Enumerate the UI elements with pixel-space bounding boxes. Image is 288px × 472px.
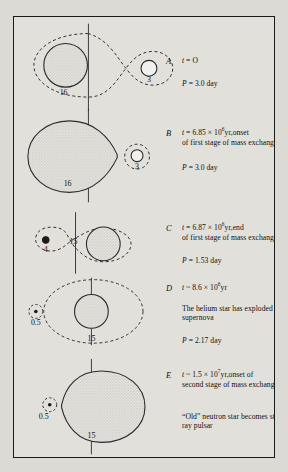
- panel-a-letter: A: [166, 57, 171, 66]
- panel-e-letter: E: [166, 371, 171, 380]
- panel-e-mass-label-neutron: 0.5: [39, 412, 49, 421]
- panel-a-period: P = 3.0 day: [182, 80, 218, 89]
- panel-b-time: t = 6.85 × 106yr,onset of first stage of…: [182, 129, 275, 147]
- panel-e-body: second stage of mass exchange: [182, 381, 275, 390]
- panel-a-mass-label-primary: 16: [60, 88, 68, 97]
- panel-b-star-primary-roche-filling: [28, 121, 117, 192]
- panel-e-star-companion-roche-filling: [62, 371, 145, 442]
- panel-e-star-neutron: [48, 403, 52, 407]
- panel-d-drawing: 0.5 15: [29, 278, 143, 345]
- panel-c-body: of first stage of mass exchange: [182, 234, 275, 243]
- panel-b-star-secondary: [131, 150, 143, 162]
- panel-a-star-secondary: [141, 60, 157, 76]
- panel-e-time: t ~ 1.5 × 107yr,onset of second stage of…: [182, 371, 275, 389]
- panel-b-body: of first stage of mass exchange: [182, 139, 275, 148]
- panel-c-drawing: 4 15: [36, 212, 131, 274]
- panel-d-body: The helium star has exploded as a supern…: [182, 305, 275, 322]
- panel-e-body-2: “Old” neutron star becomes strong X-ray …: [182, 413, 275, 430]
- panel-b-period: P = 3.0 day: [182, 164, 218, 173]
- panel-d-mass-label-neutron: 0.5: [31, 318, 41, 327]
- panel-b-mass-label-primary: 16: [64, 179, 72, 188]
- panel-d-star-companion: [75, 295, 109, 329]
- panel-c-period: P = 1.53 day: [182, 257, 222, 266]
- panel-d-star-neutron: [34, 310, 38, 314]
- panel-c-star-helium: [42, 237, 49, 244]
- panel-a-drawing: 16 3: [34, 24, 173, 111]
- panel-e-drawing: 0.5 15: [39, 359, 145, 454]
- panel-a-star-primary: [44, 43, 88, 87]
- panel-e-mass-label-companion: 15: [87, 431, 95, 440]
- panel-c-time: t = 6.87 × 106yr,end of first stage of m…: [182, 224, 275, 242]
- panel-a-mass-label-secondary: 3: [147, 75, 151, 84]
- figure-frame: 16 3 16 3 4 15: [13, 16, 275, 458]
- panel-b-drawing: 16 3: [28, 109, 150, 202]
- panel-d-letter: D: [166, 284, 172, 293]
- panel-a-time: t = O: [182, 57, 198, 66]
- panel-d-period: P = 2.17 day: [182, 337, 222, 346]
- panel-c-star-companion: [86, 227, 120, 261]
- panel-b-mass-label-secondary: 3: [135, 162, 139, 171]
- panel-c-mass-label-helium: 4: [44, 245, 48, 254]
- panel-d-mass-label-companion: 15: [87, 334, 95, 343]
- panel-c-mass-label-companion: 15: [70, 237, 78, 246]
- panel-c-letter: C: [166, 224, 172, 233]
- panel-d-time: t ~ 8.6 × 106yr: [182, 284, 227, 293]
- panel-b-letter: B: [166, 129, 171, 138]
